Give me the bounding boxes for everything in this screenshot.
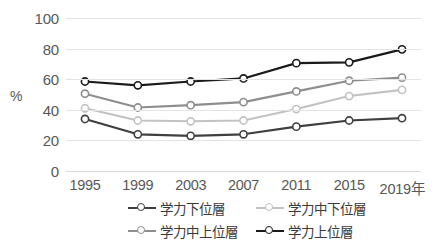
x-axis-tick-label: 2003 <box>175 177 206 193</box>
legend-marker-icon <box>128 225 156 236</box>
data-point-marker <box>293 60 300 67</box>
legend-item[interactable]: 学力中下位層 <box>256 198 416 218</box>
legend-marker-icon <box>256 202 284 213</box>
gridline <box>66 18 421 19</box>
legend-item-label: 学力下位層 <box>160 198 225 218</box>
data-point-marker <box>240 99 247 106</box>
data-point-marker <box>346 117 353 124</box>
gridline <box>66 79 421 80</box>
x-axis-tick-label: 2007 <box>228 177 259 193</box>
data-point-marker <box>293 88 300 95</box>
legend-item[interactable]: 学力上位層 <box>256 221 416 241</box>
data-point-marker <box>134 82 141 89</box>
legend-marker-icon <box>128 202 156 213</box>
x-axis-tick-label: 1995 <box>69 177 100 193</box>
data-point-marker <box>398 115 405 122</box>
data-point-marker <box>398 74 405 81</box>
gridline <box>66 110 421 111</box>
legend-item-label: 学力中上位層 <box>160 221 238 241</box>
data-point-marker <box>346 59 353 66</box>
data-point-marker <box>293 123 300 130</box>
chart-legend: 学力下位層学力中下位層学力中上位層学力上位層 <box>128 196 418 242</box>
data-point-marker <box>398 86 405 93</box>
legend-item[interactable]: 学力中上位層 <box>128 221 256 241</box>
x-axis-tick-label: 2015 <box>334 177 365 193</box>
x-axis-tick-label: 2019年 <box>380 177 425 198</box>
data-point-marker <box>240 117 247 124</box>
data-point-marker <box>187 132 194 139</box>
line-chart: % 10080604020019951999200320072011201520… <box>0 0 441 247</box>
legend-item-label: 学力上位層 <box>288 221 353 241</box>
data-point-marker <box>134 131 141 138</box>
data-point-marker <box>134 117 141 124</box>
legend-item-label: 学力中下位層 <box>288 198 366 218</box>
gridline <box>66 140 421 141</box>
data-point-marker <box>240 131 247 138</box>
x-axis-tick-label: 2011 <box>281 177 311 193</box>
y-axis-tick-label: 40 <box>43 101 59 118</box>
x-axis-tick-label: 1999 <box>122 177 153 193</box>
gridline <box>66 49 421 50</box>
y-axis-tick-label: 20 <box>43 132 59 149</box>
y-axis-tick-label: 60 <box>43 71 59 88</box>
axis-baseline <box>66 171 421 172</box>
y-axis-tick-label: 100 <box>35 10 59 27</box>
data-point-marker <box>81 115 88 122</box>
series-layer <box>66 18 421 171</box>
y-axis-tick-label: 0 <box>51 163 59 180</box>
data-point-marker <box>346 92 353 99</box>
data-point-marker <box>187 102 194 109</box>
legend-marker-icon <box>256 225 284 236</box>
y-axis-title: % <box>10 88 22 104</box>
data-point-marker <box>187 118 194 125</box>
data-point-marker <box>81 90 88 97</box>
y-axis-tick-label: 80 <box>43 40 59 57</box>
legend-item[interactable]: 学力下位層 <box>128 198 256 218</box>
plot-area: 1008060402001995199920032007201120152019… <box>66 18 421 171</box>
